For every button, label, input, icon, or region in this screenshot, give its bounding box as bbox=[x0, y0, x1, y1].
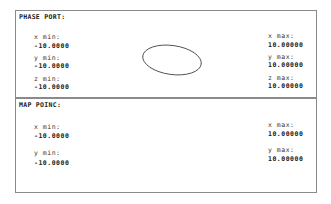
phase-port-title: PHASE PORT: bbox=[19, 13, 65, 21]
y-max-label: y max: bbox=[268, 53, 294, 61]
x-max-value[interactable]: 10.00000 bbox=[268, 41, 303, 49]
y-min-value[interactable]: -10.0000 bbox=[34, 159, 69, 167]
z-min-label: z min: bbox=[34, 75, 60, 83]
x-max-label: x max: bbox=[268, 121, 294, 129]
z-max-value[interactable]: 10.00000 bbox=[268, 82, 303, 90]
y-max-label: y max: bbox=[268, 146, 294, 154]
y-max-value[interactable]: 10.00000 bbox=[268, 61, 303, 69]
y-min-label: y min: bbox=[34, 149, 60, 157]
map-poinc-panel: MAP POINC: x min: -10.0000 y min: -10.00… bbox=[15, 98, 317, 193]
x-min-label: x min: bbox=[34, 123, 60, 131]
map-poinc-title: MAP POINC: bbox=[19, 101, 61, 109]
x-min-label: x min: bbox=[34, 33, 60, 41]
x-max-label: x max: bbox=[268, 32, 294, 40]
y-min-label: y min: bbox=[34, 54, 60, 62]
x-min-value[interactable]: -10.0000 bbox=[34, 42, 69, 50]
y-max-value[interactable]: 10.00000 bbox=[268, 155, 303, 163]
phase-port-panel: PHASE PORT: x min: -10.0000 y min: -10.0… bbox=[15, 10, 317, 98]
y-min-value[interactable]: -10.0000 bbox=[34, 62, 69, 70]
z-min-value[interactable]: -10.0000 bbox=[34, 83, 69, 91]
x-max-value[interactable]: 10.00000 bbox=[268, 130, 303, 138]
x-min-value[interactable]: -10.0000 bbox=[34, 132, 69, 140]
phase-portrait-ellipse bbox=[141, 43, 203, 77]
z-max-label: z max: bbox=[268, 74, 294, 82]
